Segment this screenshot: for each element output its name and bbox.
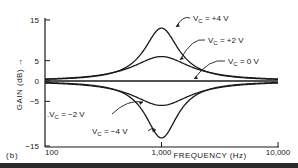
- annotation-label: VC = +2 V: [208, 36, 244, 46]
- annotation-label: VC = +4 V: [193, 14, 229, 24]
- bottom-border: [0, 163, 298, 168]
- axes: [45, 18, 279, 147]
- figure-label: (b): [6, 151, 19, 160]
- y-tick-label: −15: [25, 142, 39, 151]
- x-ticks: 1001,00010,000: [45, 142, 291, 157]
- y-tick-label: 5: [35, 57, 40, 66]
- y-tick-label: −5: [30, 97, 40, 106]
- arrowhead-icon: [139, 102, 143, 105]
- x-tick-label: 10,000: [266, 148, 291, 157]
- x-axis-label: FREQUENCY (Hz): [173, 151, 246, 160]
- annotation-label: .VC = −2 V: [47, 110, 85, 120]
- x-tick-label: 1,000: [151, 148, 172, 157]
- x-tick-label: 100: [45, 148, 59, 157]
- annotation-arrow: [112, 102, 143, 115]
- annotation-label: VC = −4 V: [92, 127, 128, 137]
- y-axis-label: GAIN (dB) →: [15, 58, 24, 111]
- y-tick-label: 0: [35, 77, 40, 86]
- gain-vs-frequency-chart: 1550−5−15 1001,00010,000 VC = +4 VVC = +…: [0, 0, 298, 163]
- arrowhead-icon: [194, 76, 198, 79]
- y-tick-label: 15: [30, 16, 39, 25]
- curve-minus2v: [45, 83, 278, 105]
- annotation-label: VC = 0 V: [228, 57, 259, 67]
